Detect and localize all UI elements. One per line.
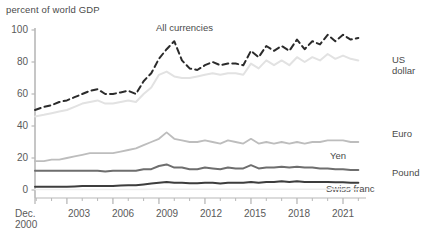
- series-path-yen: [35, 164, 358, 171]
- chart-container: percent of world GDP 100 80 60 40 20 0 D…: [0, 0, 432, 244]
- series-path-pound: [35, 181, 358, 187]
- series-path-us-dollar: [35, 54, 358, 116]
- plot-area: [0, 0, 432, 244]
- series-path-euro: [35, 132, 358, 161]
- series-path-all-currencies: [35, 35, 358, 110]
- series-lines: [35, 35, 358, 190]
- axes: [32, 28, 367, 204]
